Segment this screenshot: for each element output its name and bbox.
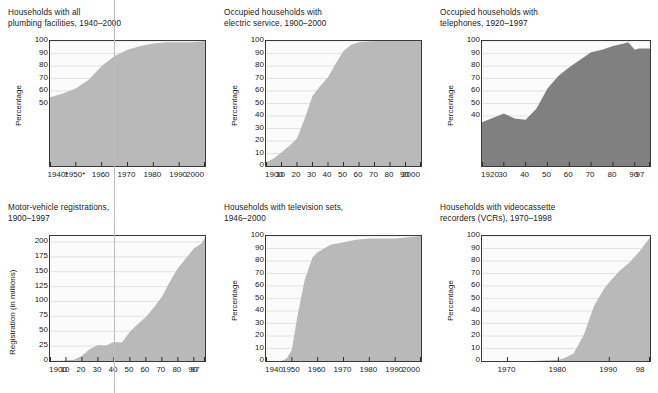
y-tick-label: 125 — [35, 282, 48, 290]
y-tick-label: 90 — [255, 49, 264, 57]
y-tick-label: 40 — [471, 306, 480, 314]
y-tick-label: 80 — [471, 256, 480, 264]
y-tick-label: 70 — [255, 269, 264, 277]
x-tick-label: 1940 — [265, 366, 283, 374]
y-tick-label: 0 — [476, 356, 480, 364]
x-tick-label: 97 — [636, 171, 645, 179]
panel-title: Households with all plumbing facilities,… — [8, 8, 208, 29]
area-series — [482, 237, 650, 361]
x-tick-label: 70 — [369, 171, 378, 179]
y-tick-label: 100 — [251, 231, 264, 239]
y-tick-label: 50 — [255, 294, 264, 302]
x-tick-label: 80 — [385, 171, 394, 179]
chart-canvas-motor-vehicles — [50, 236, 205, 361]
x-tick-label: 60 — [354, 171, 363, 179]
x-tick-label: 30 — [92, 366, 101, 374]
x-tick-label: 60 — [564, 171, 573, 179]
x-tick-label: 1960 — [92, 171, 110, 179]
x-tick-label: 1950* — [64, 171, 85, 179]
x-tick-labels: 190010203040506070809097 — [49, 366, 206, 378]
y-tick-label: 70 — [255, 74, 264, 82]
x-tick-label: 1920 — [481, 171, 499, 179]
y-tick-label: 40 — [255, 306, 264, 314]
register-line — [114, 0, 115, 393]
y-tick-labels: 0102030405060708090100 — [232, 40, 264, 170]
y-tick-labels: 0102030405060708090100 — [232, 235, 264, 365]
y-tick-label: 30 — [255, 319, 264, 327]
x-tick-label: 1980 — [359, 366, 377, 374]
x-tick-label: 40 — [108, 366, 117, 374]
panel-telephones: Occupied households with telephones, 192… — [440, 8, 654, 188]
y-tick-label: 100 — [35, 36, 48, 44]
panel-plumbing: Households with all plumbing facilities,… — [8, 8, 218, 188]
chart-canvas-telephones — [482, 41, 650, 166]
y-tick-labels: 405060708090100 — [448, 40, 480, 170]
x-tick-label: 1990 — [385, 366, 403, 374]
y-tick-label: 20 — [471, 331, 480, 339]
panel-title: Households with television sets, 1946–20… — [224, 203, 429, 224]
y-tick-label: 80 — [255, 256, 264, 264]
x-tick-label: 2000 — [402, 171, 420, 179]
x-tick-label: 40 — [520, 171, 529, 179]
y-tick-label: 20 — [255, 136, 264, 144]
x-tick-label: 1990 — [169, 171, 187, 179]
x-tick-label: 70 — [156, 366, 165, 374]
x-tick-label: 80 — [607, 171, 616, 179]
x-tick-labels: 19203040506070809097 — [481, 171, 651, 183]
area-series — [482, 42, 650, 166]
panel-title: Occupied households with electric servic… — [224, 8, 424, 29]
x-tick-label: 1950 — [282, 366, 300, 374]
y-tick-label: 0 — [44, 356, 48, 364]
y-tick-label: 40 — [255, 111, 264, 119]
y-tick-label: 70 — [471, 74, 480, 82]
x-tick-label: 10 — [61, 366, 70, 374]
panel-title: Households with videocassette recorders … — [440, 203, 650, 224]
x-tick-label: 80 — [172, 366, 181, 374]
x-tick-label: 1960 — [308, 366, 326, 374]
y-tick-label: 10 — [255, 149, 264, 157]
plot-area-vcr — [481, 235, 651, 362]
panel-motor-vehicles: Motor-vehicle registrations, 1900–1997 R… — [8, 203, 218, 385]
panel-title: Occupied households with telephones, 192… — [440, 8, 645, 29]
x-tick-label: 30 — [307, 171, 316, 179]
y-tick-label: 60 — [255, 281, 264, 289]
y-tick-label: 90 — [471, 49, 480, 57]
x-tick-label: 30 — [498, 171, 507, 179]
panel-television: Households with television sets, 1946–20… — [224, 203, 434, 385]
y-tick-label: 100 — [35, 296, 48, 304]
x-tick-label: 1980 — [548, 366, 566, 374]
y-tick-label: 50 — [39, 326, 48, 334]
y-tick-label: 200 — [35, 237, 48, 245]
y-tick-label: 0 — [260, 356, 264, 364]
figure-sheet: Households with all plumbing facilities,… — [0, 0, 658, 393]
y-tick-label: 20 — [255, 331, 264, 339]
y-tick-label: 50 — [39, 99, 48, 107]
y-tick-label: 150 — [35, 267, 48, 275]
y-tick-label: 10 — [471, 344, 480, 352]
plot-area-plumbing — [49, 40, 206, 167]
y-tick-label: 50 — [255, 99, 264, 107]
x-tick-label: 98 — [636, 366, 645, 374]
plot-area-television — [265, 235, 422, 362]
y-tick-label: 90 — [471, 244, 480, 252]
x-tick-label: 2000 — [402, 366, 420, 374]
plot-area-electric — [265, 40, 422, 167]
panel-vcr: Households with videocassette recorders … — [440, 203, 654, 385]
y-tick-labels: 0255075100125150175200 — [16, 235, 48, 365]
x-tick-label: 60 — [140, 366, 149, 374]
y-tick-label: 60 — [39, 86, 48, 94]
y-tick-label: 60 — [471, 281, 480, 289]
panel-electric: Occupied households with electric servic… — [224, 8, 434, 188]
x-tick-label: 10 — [276, 171, 285, 179]
y-tick-label: 80 — [39, 61, 48, 69]
chart-canvas-plumbing — [50, 41, 205, 166]
x-tick-label: 50 — [338, 171, 347, 179]
y-tick-label: 30 — [471, 319, 480, 327]
x-tick-labels: 1940*1950*19601970198019902000 — [49, 171, 206, 183]
chart-canvas-television — [266, 236, 421, 361]
chart-canvas-vcr — [482, 236, 650, 361]
plot-area-telephones — [481, 40, 651, 167]
y-tick-label: 40 — [471, 111, 480, 119]
x-tick-label: 1990 — [599, 366, 617, 374]
y-tick-label: 90 — [255, 244, 264, 252]
